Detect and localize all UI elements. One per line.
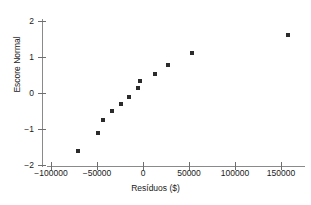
x-tick-label: 150000 bbox=[258, 169, 304, 178]
data-point bbox=[153, 72, 157, 76]
data-point bbox=[138, 79, 142, 83]
data-point bbox=[136, 86, 140, 90]
x-tick-label: −100000 bbox=[28, 169, 74, 178]
data-point bbox=[101, 118, 105, 122]
x-axis-title: Resíduos ($) bbox=[0, 184, 311, 193]
data-point bbox=[190, 51, 194, 55]
y-tick bbox=[38, 129, 46, 130]
data-point bbox=[286, 33, 290, 37]
data-point bbox=[96, 131, 100, 135]
y-tick-label: −1 bbox=[0, 125, 34, 134]
data-point bbox=[76, 149, 80, 153]
scatter-plot: −2−1012 −100000−50000050000100000150000 … bbox=[0, 0, 311, 205]
data-point bbox=[119, 102, 123, 106]
y-axis-title: Escore Normal bbox=[13, 20, 22, 110]
x-tick-label: 100000 bbox=[212, 169, 258, 178]
y-tick bbox=[38, 21, 46, 22]
y-tick bbox=[38, 57, 46, 58]
x-tick-label: 0 bbox=[120, 169, 166, 178]
x-axis-line bbox=[47, 166, 305, 167]
chart-screenshot: −2−1012 −100000−50000050000100000150000 … bbox=[0, 0, 311, 205]
data-point bbox=[166, 63, 170, 67]
x-tick-label: −50000 bbox=[74, 169, 120, 178]
x-tick-label: 50000 bbox=[166, 169, 212, 178]
y-tick bbox=[38, 93, 46, 94]
data-point bbox=[110, 109, 114, 113]
y-tick bbox=[38, 165, 46, 166]
data-point bbox=[127, 95, 131, 99]
